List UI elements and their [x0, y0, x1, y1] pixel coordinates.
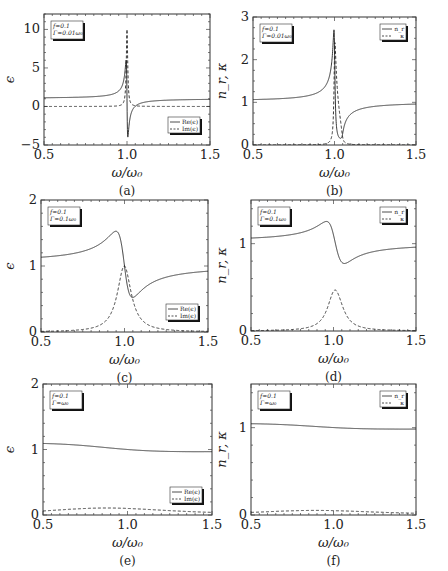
- x-axis-label: ω/ω₀: [318, 351, 350, 366]
- legend-entry: Im(ϵ): [184, 495, 200, 502]
- legend-entry: κ: [400, 399, 404, 406]
- y-axis-label: ϵ: [2, 262, 17, 270]
- y-tick-label: 2: [31, 376, 39, 391]
- series-line-real: [251, 424, 416, 429]
- y-tick-label: 5: [32, 60, 40, 75]
- chart-panel-e: 0.51.01.5012ω/ω₀ϵ(e)f=0.1Γ=ω₀Re(ϵ)Im(ϵ): [2, 376, 222, 568]
- x-axis-label: ω/ω₀: [319, 165, 351, 180]
- x-tick-label: 1.5: [198, 334, 219, 349]
- y-tick-label: 3: [241, 9, 249, 24]
- x-tick-label: 1.5: [202, 517, 223, 532]
- figure-canvas: 0.51.01.5−50510ω/ω₀ϵ(a)f=0.1Γ=0.01ω₀Re(ϵ…: [0, 0, 448, 571]
- y-tick-label: 1: [239, 420, 247, 435]
- annotation-text: Γ=0.01ω₀: [261, 32, 292, 39]
- annotation-text: Γ=0.1ω₀: [259, 215, 287, 222]
- y-tick-label: 0: [31, 507, 39, 522]
- y-tick-label: 1: [241, 94, 249, 109]
- x-axis-label: ω/ω₀: [112, 165, 144, 180]
- y-axis-label: n_r, κ: [214, 62, 229, 99]
- x-axis-label: ω/ω₀: [109, 352, 141, 367]
- y-tick-label: 1: [29, 258, 37, 273]
- y-tick-label: 2: [241, 52, 249, 67]
- y-tick-label: 10: [23, 21, 40, 36]
- chart-panel-b: 0.51.01.50123ω/ω₀n_r, κ(b)f=0.1Γ=0.01ω₀n…: [214, 9, 426, 198]
- series-line-real: [251, 221, 416, 263]
- panel-caption: (b): [326, 184, 343, 198]
- annotation-text: Γ=ω₀: [259, 399, 277, 406]
- series-line-imag: [253, 43, 416, 145]
- legend-entry: Re(ϵ): [182, 118, 198, 125]
- chart-panel-a: 0.51.01.5−50510ω/ω₀ϵ(a)f=0.1Γ=0.01ω₀Re(ϵ…: [2, 14, 220, 198]
- x-tick-label: 1.0: [117, 517, 138, 532]
- panel-caption: (a): [119, 184, 136, 198]
- legend-entry: Re(ϵ): [180, 305, 196, 312]
- y-tick-label: 0: [32, 98, 40, 113]
- annotation-text: Γ=ω₀: [51, 399, 69, 406]
- y-tick-label: −5: [21, 137, 40, 152]
- panel-caption: (d): [325, 370, 342, 384]
- legend-entry: κ: [400, 32, 404, 39]
- chart-panel-d: 0.51.01.501ω/ω₀n_r, κ(d)f=0.1Γ=0.1ω₀n_rκ: [214, 200, 426, 384]
- x-axis-label: ω/ω₀: [112, 535, 144, 550]
- legend-entry: Im(ϵ): [182, 125, 198, 132]
- x-tick-label: 1.5: [406, 517, 427, 532]
- series-line-real: [41, 231, 208, 297]
- y-tick-label: 1: [239, 236, 247, 251]
- y-tick-label: 0: [239, 323, 247, 338]
- chart-panel-c: 0.51.01.5012ω/ω₀ϵ(c)f=0.1Γ=0.1ω₀Re(ϵ)Im(…: [2, 192, 218, 385]
- panel-caption: (e): [119, 554, 135, 568]
- series-line-imag: [251, 290, 416, 331]
- x-tick-label: 1.5: [406, 333, 427, 348]
- series-line-real: [43, 443, 212, 451]
- y-tick-label: 2: [29, 192, 37, 207]
- y-tick-label: 1: [31, 442, 39, 457]
- annotation-text: Γ=0.1ω₀: [49, 215, 77, 222]
- x-tick-label: 1.5: [406, 147, 427, 162]
- y-axis-label: ϵ: [2, 75, 17, 83]
- y-axis-label: ϵ: [2, 445, 17, 453]
- legend-entry: Re(ϵ): [184, 488, 200, 495]
- x-tick-label: 1.0: [324, 147, 345, 162]
- y-tick-label: 0: [241, 137, 249, 152]
- x-tick-label: 1.0: [323, 333, 344, 348]
- y-axis-label: n_r, κ: [214, 431, 229, 468]
- x-tick-label: 1.0: [114, 334, 135, 349]
- x-tick-label: 1.5: [200, 147, 221, 162]
- y-axis-label: n_r, κ: [214, 247, 229, 284]
- x-tick-label: 1.0: [117, 147, 138, 162]
- y-tick-label: 0: [239, 507, 247, 522]
- panel-caption: (c): [116, 371, 132, 385]
- x-axis-label: ω/ω₀: [318, 535, 350, 550]
- panel-caption: (f): [327, 554, 341, 568]
- chart-panel-f: 0.51.01.501ω/ω₀n_r, κ(f)f=0.1Γ=ω₀n_rκ: [214, 384, 426, 568]
- x-tick-label: 1.0: [323, 517, 344, 532]
- y-tick-label: 0: [29, 324, 37, 339]
- legend-entry: κ: [400, 215, 404, 222]
- annotation-text: Γ=0.01ω₀: [52, 29, 83, 36]
- legend-entry: Im(ϵ): [180, 312, 196, 319]
